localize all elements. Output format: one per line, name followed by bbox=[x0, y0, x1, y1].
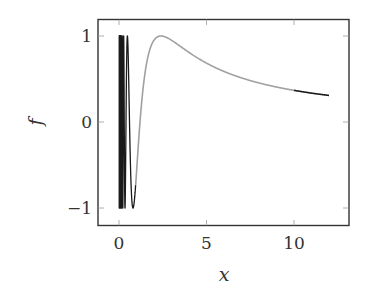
x-tick-label: 10 bbox=[283, 233, 305, 253]
plot-frame bbox=[98, 20, 349, 226]
y-tick-labels: −101 bbox=[67, 26, 92, 218]
curve-segment-middle bbox=[136, 36, 294, 185]
y-tick-label: −1 bbox=[67, 198, 92, 218]
y-tick-label: 1 bbox=[81, 26, 92, 46]
axis-ticks bbox=[98, 20, 349, 226]
plot-curves bbox=[119, 36, 329, 208]
curve-segment-oscillation bbox=[119, 36, 135, 208]
y-tick-label: 0 bbox=[81, 112, 92, 132]
chart: 0510 −101 x f bbox=[0, 0, 372, 302]
x-tick-labels: 0510 bbox=[114, 233, 305, 253]
y-axis-label: f bbox=[24, 116, 46, 128]
x-tick-label: 0 bbox=[114, 233, 125, 253]
curve-segment-tail bbox=[294, 90, 329, 95]
x-axis-label: x bbox=[219, 263, 230, 285]
x-tick-label: 5 bbox=[201, 233, 212, 253]
